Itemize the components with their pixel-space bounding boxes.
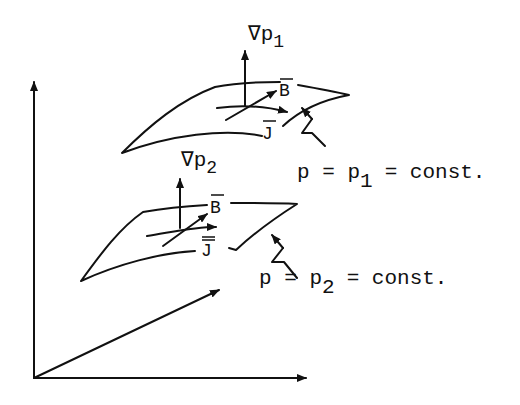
j-current-arrow-top (217, 106, 287, 112)
surface-bottom-outline-right (229, 203, 297, 250)
equation-bottom: p = p2= const. (259, 267, 447, 299)
j-label-bottom: J (201, 241, 212, 261)
leader-arrow-bottom (272, 235, 283, 248)
b-label-top: B (279, 81, 290, 101)
pressure-surfaces-diagram: ∇p1 B J p = p1= const. ∇p2 B J p = p2= c… (0, 0, 520, 405)
leader-zigzag-top (302, 119, 325, 146)
surface-top-outline-left (122, 82, 280, 153)
surface-bottom-outline-left (81, 205, 207, 281)
gradient-p2-label: ∇p2 (180, 149, 217, 178)
surface-top: ∇p1 B J p = p1= const. (122, 23, 485, 193)
equation-top: p = p1= const. (297, 161, 485, 193)
b-label-bottom: B (210, 198, 221, 218)
j-label-top: J (262, 124, 273, 144)
surface-top-outline-right (283, 85, 349, 126)
gradient-p1-label: ∇p1 (247, 23, 284, 52)
depth-axis (34, 290, 219, 378)
